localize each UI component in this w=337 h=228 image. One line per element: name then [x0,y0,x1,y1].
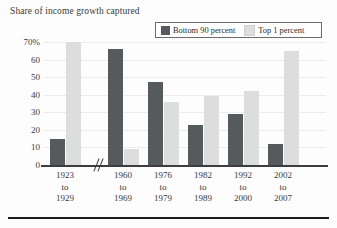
bar-top-1-percent[interactable] [284,51,299,165]
y-axis-tick-label: 20 [4,125,40,135]
y-axis-tick-label: 60 [4,55,40,65]
bar-group [228,42,262,165]
x-axis-tick-label: 2002to2007 [260,170,306,205]
x-axis-tick-label-line: to [42,182,88,194]
plot-area [44,42,326,165]
legend-swatch-icon [161,26,170,35]
bar-top-1-percent[interactable] [164,102,179,165]
bar-group [268,42,302,165]
bar-bottom-90-percent[interactable] [50,139,65,165]
bar-top-1-percent[interactable] [66,42,81,165]
y-axis: 70%6050403020100 [0,42,40,165]
bar-bottom-90-percent[interactable] [148,82,163,165]
bar-group [50,42,84,165]
y-axis-tick-label: 0 [4,160,40,170]
bar-bottom-90-percent[interactable] [188,125,203,165]
bar-bottom-90-percent[interactable] [228,114,243,165]
bottom-rule [8,217,329,219]
bar-bottom-90-percent[interactable] [268,144,283,165]
legend-swatch-icon [244,25,255,36]
x-axis-tick-label-line: 2002 [260,170,306,182]
chart-title: Share of income growth captured [10,6,140,16]
chart-figure: Share of income growth captured Bottom 9… [0,0,337,228]
x-axis-tick-label-line: 1929 [42,193,88,205]
x-axis-tick-label-line: to [260,182,306,194]
legend-item[interactable]: Top 1 percent [244,25,304,36]
y-axis-tick-label: 50 [4,72,40,82]
y-axis-tick-label: 30 [4,107,40,117]
x-axis-tick-label: 1923to1929 [42,170,88,205]
x-axis-baseline [41,165,328,167]
legend-label: Bottom 90 percent [173,26,235,35]
y-axis-tick-label: 70% [4,37,40,47]
bar-bottom-90-percent[interactable] [108,49,123,165]
bar-top-1-percent[interactable] [204,96,219,165]
legend-label: Top 1 percent [258,26,304,35]
bar-group [108,42,142,165]
bar-group [188,42,222,165]
y-axis-tick-label: 40 [4,90,40,100]
x-axis-tick-label-line: 1923 [42,170,88,182]
chart-legend: Bottom 90 percentTop 1 percent [155,22,322,38]
bar-top-1-percent[interactable] [244,91,259,165]
x-axis-tick-label-line: 2007 [260,193,306,205]
y-axis-tick-label: 10 [4,142,40,152]
legend-item[interactable]: Bottom 90 percent [161,26,235,35]
bar-top-1-percent[interactable] [124,149,139,165]
bar-group [148,42,182,165]
